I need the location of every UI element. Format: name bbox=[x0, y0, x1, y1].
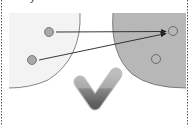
diagram-frame: y bbox=[0, 0, 192, 126]
diagram-canvas bbox=[0, 0, 192, 126]
left-region bbox=[9, 13, 80, 88]
checkmark-icon bbox=[80, 74, 116, 104]
point-filled-p2 bbox=[28, 56, 37, 65]
right-region bbox=[113, 13, 186, 88]
point-filled-p1 bbox=[45, 28, 54, 37]
arrow-p1-q1 bbox=[56, 32, 166, 33]
caption-text: y bbox=[30, 0, 36, 3]
